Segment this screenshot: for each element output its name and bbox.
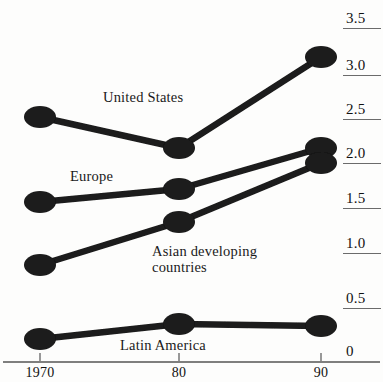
x-axis	[3, 353, 380, 362]
y-tick-1-5: 1.5	[343, 191, 383, 209]
x-tick-label-90: 90	[314, 366, 328, 380]
series-label-united-states: United States	[103, 89, 183, 105]
y-tick-0-5: 0.5	[343, 291, 383, 309]
y-tick-2-0: 2.0	[343, 146, 383, 164]
y-tick-rule	[343, 253, 381, 254]
y-tick-label: 1.5	[343, 191, 383, 208]
y-tick-rule	[343, 361, 381, 362]
y-tick-label: 1.0	[343, 236, 383, 253]
y-tick-rule	[343, 163, 381, 164]
series-label-europe: Europe	[70, 168, 113, 184]
y-tick-3-0: 3.0	[343, 58, 383, 76]
y-tick-label: 0	[343, 344, 383, 361]
y-tick-label: 3.5	[343, 11, 383, 28]
series-label-latin-america: Latin America	[120, 337, 206, 353]
series-label-asian-developing-countries: Asian developing countries	[152, 243, 257, 275]
y-tick-rule	[343, 119, 381, 120]
y-tick-label: 3.0	[343, 58, 383, 75]
x-tick-label-1970: 1970	[26, 366, 55, 380]
chart-plot-area	[0, 0, 383, 382]
y-tick-label: 2.0	[343, 146, 383, 163]
y-tick-rule	[343, 28, 381, 29]
y-tick-0: 0	[343, 344, 383, 362]
y-tick-1-0: 1.0	[343, 236, 383, 254]
y-tick-rule	[343, 308, 381, 309]
line-chart: 3.5 3.0 2.5 2.0 1.5 1.0 0.5 0 1970 80 90…	[0, 0, 383, 382]
y-tick-2-5: 2.5	[343, 102, 383, 120]
y-tick-label: 2.5	[343, 102, 383, 119]
y-tick-3-5: 3.5	[343, 11, 383, 29]
x-tick-label-80: 80	[172, 366, 186, 380]
y-tick-rule	[343, 208, 381, 209]
y-tick-rule	[343, 75, 381, 76]
y-tick-label: 0.5	[343, 291, 383, 308]
